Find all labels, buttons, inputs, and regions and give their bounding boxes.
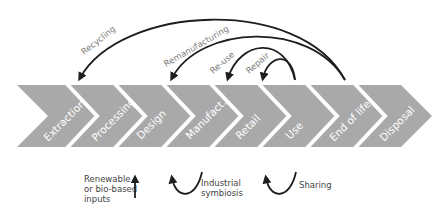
repair-arrow [263,59,295,80]
symbiosis-label-line1: Industrial [201,178,241,188]
sharing-arrow [266,172,296,194]
loop-label-repair: Repair [244,50,272,75]
sharing-label: Sharing [299,180,332,190]
circular-economy-diagram: Extraction Processing Design Manufact. R… [0,0,448,212]
symbiosis-label-line2: symbiosis [201,188,243,198]
inputs-label-line2: or bio-based [84,184,137,194]
loop-label-recycling: Recycling [79,24,117,57]
inputs-label-line1: Renewable [84,174,131,184]
industrial-symbiosis-arrow [172,172,202,194]
loop-label-reuse: Re-use [208,49,237,75]
inputs-label-line3: inputs [84,194,111,204]
